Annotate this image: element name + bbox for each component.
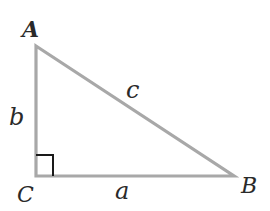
vertex-label-b: B [240,173,257,198]
vertex-label-a: A [20,16,39,42]
side-label-c: c [126,76,139,104]
vertex-label-c: C [17,182,34,207]
right-triangle-diagram: A B C a b c [0,0,270,211]
right-angle-marker [36,155,53,176]
side-label-a: a [115,177,129,205]
side-label-b: b [9,103,24,131]
triangle [36,46,234,176]
